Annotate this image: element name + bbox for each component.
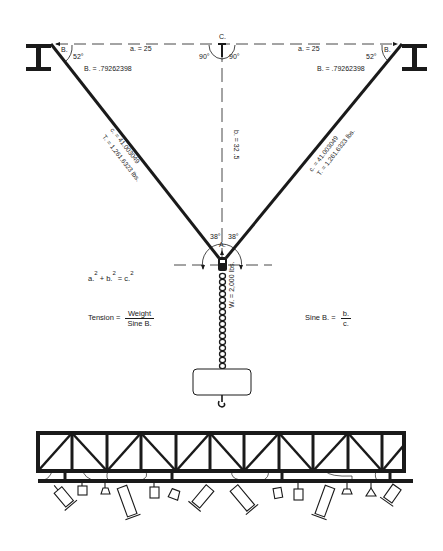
label-weight: W. = 2,000 lbs. [228,261,235,308]
light-fixture [114,484,140,520]
formula-lhs: Tension = [88,313,120,322]
formula-tension: Tension = Weight Sine B. [88,309,154,328]
fraction: b. c. [341,309,351,328]
arrow-icon [55,42,60,46]
label-corner-c: C. [219,33,226,40]
label-angle-b-left: 52° [73,53,84,60]
numerator: Weight [125,309,153,319]
light-fixture [78,481,87,495]
numerator: b. [341,309,351,319]
arrow-icon [393,42,398,46]
hook-icon [218,395,224,407]
arrow-icon [239,265,243,270]
label-angle-c-left: 90° [199,53,210,60]
corner-c-stem [221,43,223,57]
label-b: b. = 32 .5 [233,130,240,159]
formula-lhs: Sine B. = [305,313,336,322]
arrow-icon [220,250,224,255]
shackle [218,257,227,271]
label-a-left: a. = 25 [130,45,152,52]
label-sine-b-right: B. = .79262398 [317,65,365,72]
label-angle-b-right: 52° [366,53,377,60]
label-corner-a: A. [219,241,226,248]
chain [220,273,226,368]
arrow-icon [201,265,205,270]
label-corner-b-left: B. [61,46,68,53]
light-fixture [168,488,180,500]
light-fixture [228,483,258,515]
label-angle-c-right: 90° [229,53,240,60]
rigging-diagram: B. 52° a. = 25 B. = .79262398 C. 90° 90°… [0,0,443,551]
formula-pythagoras: a.2 + b.2 = c.2 [88,272,134,283]
light-fixture [294,481,303,500]
exponent: 2 [130,270,133,276]
i-beam-right [402,44,427,71]
fraction: Weight Sine B. [125,309,153,328]
exponent: 2 [94,270,97,276]
light-fixture [48,480,77,510]
light-fixture [312,484,338,520]
bridle-leg-right [226,44,402,258]
light-fixture [188,483,216,512]
stage-lights [48,480,404,520]
light-fixture [273,487,283,498]
formula-term-c: = c. [118,274,130,283]
i-beam-left [26,44,51,71]
label-sine-b-left: B. = .79262398 [84,65,132,72]
denominator: c. [341,319,351,328]
denominator: Sine B. [125,319,153,328]
label-corner-b-right: B. [384,46,391,53]
formula-sine: Sine B. = b. c. [305,309,351,328]
label-a-right: a. = 25 [298,45,320,52]
light-fixture [380,482,403,506]
exponent: 2 [112,270,115,276]
light-fixture [150,481,159,498]
truss [38,433,413,481]
label-angle-a-right: 38° [228,233,239,240]
hoist-body [193,369,251,395]
diagram-canvas: B. 52° a. = 25 B. = .79262398 C. 90° 90°… [0,0,443,551]
light-fixture [366,481,376,496]
label-angle-a-left: 38° [210,233,221,240]
formula-term-b: + b. [100,274,113,283]
